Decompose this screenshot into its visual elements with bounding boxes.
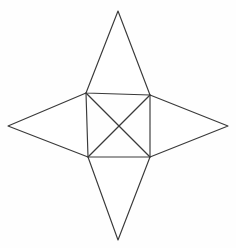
figure-canvas (0, 0, 236, 248)
four-pointed-star-drawing (0, 0, 236, 248)
